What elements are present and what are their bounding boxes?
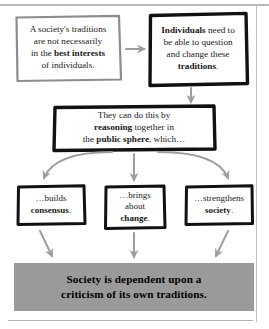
page-rule-bottom bbox=[8, 320, 253, 321]
node-traditions: A society's traditionsare not necessaril… bbox=[14, 14, 122, 82]
diagram-page: A society's traditionsare not necessaril… bbox=[0, 0, 269, 329]
arrow-society-to-banner bbox=[216, 231, 228, 256]
conclusion-banner: Society is dependent upon acriticism of … bbox=[14, 263, 254, 311]
arrow-reasoning-to-society bbox=[158, 152, 228, 178]
node-reasoning-text: They can do this byreasoning together in… bbox=[79, 110, 189, 145]
node-change-text: …bringsaboutchange. bbox=[115, 190, 155, 225]
node-society-text: …strengthenssociety. bbox=[190, 193, 248, 216]
node-change: …bringsaboutchange. bbox=[104, 184, 166, 230]
node-consensus-text: …buildsconsensus. bbox=[27, 193, 75, 216]
page-rule-top bbox=[0, 4, 269, 6]
node-consensus: …buildsconsensus. bbox=[16, 184, 86, 226]
conclusion-banner-text: Society is dependent upon acriticism of … bbox=[51, 272, 217, 301]
page-rule-right-margin bbox=[256, 6, 257, 322]
node-reasoning: They can do this byreasoning together in… bbox=[52, 104, 216, 152]
node-traditions-text: A society's traditionsare not necessaril… bbox=[26, 24, 111, 71]
arrow-reasoning-to-consensus bbox=[44, 152, 112, 178]
node-individuals-text: Individuals need tobe able to questionan… bbox=[157, 25, 239, 72]
node-society: …strengthenssociety. bbox=[184, 184, 254, 226]
arrow-consensus-to-banner bbox=[40, 231, 52, 256]
node-individuals: Individuals need tobe able to questionan… bbox=[148, 12, 248, 86]
